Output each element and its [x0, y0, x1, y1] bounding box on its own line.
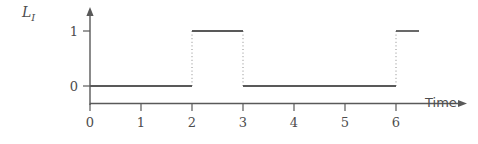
- step-function-figure: LI Time 1 0 0 1 2 3 4 5 6: [0, 0, 478, 144]
- x-axis: [90, 100, 467, 107]
- y-axis-label: LI: [22, 5, 36, 23]
- x-tick-label-1: 1: [137, 116, 145, 129]
- y-tick-label-1: 1: [70, 25, 78, 38]
- y-tick-label-0: 0: [70, 80, 78, 93]
- step-segments: [90, 31, 419, 86]
- x-tick-label-6: 6: [392, 116, 400, 129]
- y-axis-label-base: L: [22, 4, 31, 20]
- x-axis-ticks: [90, 104, 396, 112]
- x-axis-label: Time: [425, 96, 457, 109]
- step-transitions: [192, 31, 396, 86]
- y-axis-ticks: [83, 31, 90, 86]
- y-axis: [86, 7, 93, 105]
- x-tick-label-4: 4: [290, 116, 298, 129]
- y-axis-label-subscript: I: [31, 12, 35, 23]
- x-tick-label-3: 3: [239, 116, 247, 129]
- x-tick-label-0: 0: [86, 116, 94, 129]
- x-tick-label-2: 2: [188, 116, 196, 129]
- x-tick-label-5: 5: [341, 116, 349, 129]
